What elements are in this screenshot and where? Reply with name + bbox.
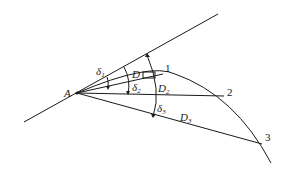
label-delta1: δ1	[96, 65, 105, 79]
circular-curve	[77, 71, 271, 163]
label-delta3: δ3	[157, 102, 166, 116]
label-point-a: A	[63, 87, 71, 99]
label-point-1: 1	[165, 62, 171, 74]
label-chord-d3: D3	[179, 111, 192, 125]
label-delta2: δ2	[132, 81, 141, 95]
arrow-icon	[106, 86, 110, 90]
deflection-angle-diagram: A 1 2 3 δ1 δ2 δ3 D D2 D3	[0, 0, 288, 175]
angle-arc-delta3	[147, 55, 156, 117]
tangent-line	[24, 14, 218, 122]
label-point-3: 3	[265, 131, 271, 143]
point-a-marker	[76, 92, 79, 95]
label-point-2: 2	[227, 86, 233, 98]
label-chord-d2: D2	[157, 82, 170, 96]
angle-arc-delta2	[124, 67, 129, 94]
chord-a-2	[77, 93, 224, 96]
chord-a-3	[77, 93, 262, 144]
label-chord-d1: D	[131, 68, 140, 80]
arrow-icon	[151, 114, 156, 118]
